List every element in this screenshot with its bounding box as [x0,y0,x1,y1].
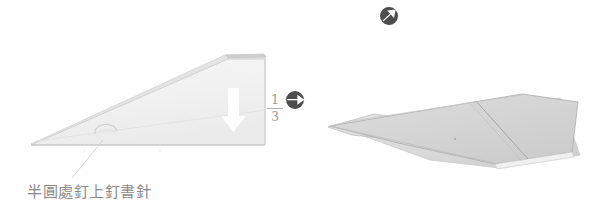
right-paper-figure [328,94,580,169]
rotate-right-icon [284,89,306,111]
caption-leader-line [72,140,103,178]
fraction-numerator: 1 [267,93,283,107]
one-third-fraction-label: 1 3 [267,93,283,124]
left-paper-figure [31,54,266,178]
left-tick-mark-a [84,148,85,153]
fraction-denominator: 3 [267,110,283,124]
right-main-face [330,94,578,164]
caption-text: 半圓處釘上釘書針 [27,182,151,202]
left-fold-strip-cap [226,54,266,58]
fraction-bar [267,108,283,109]
diagram-canvas: 1 3 半圓處釘上釘書針 [0,0,604,213]
rotate-diagonal-icon [378,5,400,27]
right-face-mark [454,138,456,140]
